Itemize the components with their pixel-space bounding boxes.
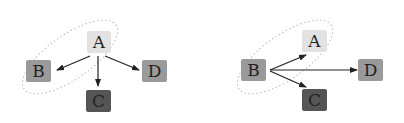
edge-a-d [105,56,139,70]
diagram-left: A B C D [12,7,167,112]
node-c: C [302,89,327,111]
node-a: A [302,30,327,52]
node-label: A [307,31,321,51]
node-label: C [92,91,105,111]
node-b: B [241,59,266,81]
edge-b-a [270,55,306,70]
node-label: D [364,60,378,80]
node-label: C [308,90,321,110]
node-label: D [148,61,162,81]
node-d: D [142,60,167,82]
node-label: B [32,61,45,81]
diagram-canvas: A B C D A B C [0,0,404,123]
node-label: B [247,60,260,80]
node-a: A [87,31,111,53]
node-label: A [92,32,106,52]
diagram-right: A B C D [227,7,383,111]
node-c: C [86,90,111,112]
node-d: D [358,59,383,81]
node-b: B [26,60,51,82]
edge-a-b [57,56,90,70]
